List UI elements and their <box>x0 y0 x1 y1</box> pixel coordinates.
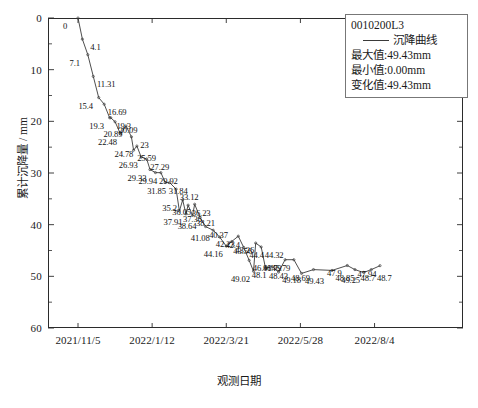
data-point-label: 7.1 <box>70 58 80 68</box>
x-tick-label: 2022/5/28 <box>278 334 324 346</box>
data-point-label: 23 <box>140 140 148 150</box>
y-axis-title: 累计沉降量 / mm <box>14 88 30 228</box>
data-point-label: 38.21 <box>196 218 215 228</box>
y-tick-label: 10 <box>12 64 42 76</box>
y-tick-label: 50 <box>12 270 42 282</box>
y-tick-label: 60 <box>12 322 42 334</box>
legend-series-entry: 沉降曲线 <box>351 33 463 48</box>
data-point-label: 29.92 <box>159 176 178 186</box>
data-point-label: 49.02 <box>231 274 250 284</box>
data-point-label: 41.08 <box>191 233 210 243</box>
x-tick-label: 2022/1/12 <box>129 334 175 346</box>
data-point-label: 44.32 <box>265 250 284 260</box>
figure-caption <box>0 396 478 408</box>
data-point-label: 26.93 <box>119 160 138 170</box>
data-point-label: 4.1 <box>90 42 100 52</box>
x-axis-title: 观测日期 <box>0 372 478 388</box>
x-tick-label: 2022/8/4 <box>355 334 395 346</box>
data-point-label: 33.12 <box>180 192 199 202</box>
data-point-label: 11.31 <box>97 79 116 89</box>
data-point-label: 20.89 <box>104 129 123 139</box>
data-point-label: 38.64 <box>178 221 197 231</box>
data-point-label: 48.7 <box>377 273 392 283</box>
data-point-label: 16.69 <box>108 107 127 117</box>
data-point-label: 47.9 <box>327 268 342 278</box>
data-point-label: 0 <box>63 21 67 31</box>
legend-box: 0010200L3 沉降曲线 最大值:49.43mm 最小值:0.00mm 变化… <box>345 14 468 98</box>
data-point-label: 48.69 <box>291 273 310 283</box>
data-point-markers <box>77 17 381 275</box>
y-tick-label: 0 <box>12 12 42 24</box>
data-point-label: 15.4 <box>78 101 93 111</box>
settlement-curve-figure: 0102030405060 2021/11/52022/1/122022/3/2… <box>0 0 478 408</box>
data-point-label: 44.16 <box>204 249 223 259</box>
x-tick-label: 2021/11/5 <box>55 334 100 346</box>
data-point-label: 46.79 <box>271 263 290 273</box>
data-point-label: 40.37 <box>209 230 228 240</box>
settlement-curve-line <box>78 18 380 273</box>
data-point-label: 19.3 <box>89 121 104 131</box>
legend-change-value: 变化值:49.43mm <box>351 78 463 93</box>
data-point-label: 47.94 <box>358 269 377 279</box>
legend-title: 0010200L3 <box>351 18 463 33</box>
legend-min-value: 最小值:0.00mm <box>351 63 463 78</box>
data-point-label: 42.23 <box>216 239 235 249</box>
x-tick-label: 2022/3/21 <box>204 334 250 346</box>
legend-max-value: 最大值:49.43mm <box>351 48 463 63</box>
data-point-label: 27.29 <box>150 162 169 172</box>
data-point-label: 31.85 <box>147 186 166 196</box>
legend-series-label: 沉降曲线 <box>393 33 437 48</box>
data-point-label: 24.78 <box>114 149 133 159</box>
data-point-label: 29.94 <box>138 176 157 186</box>
data-point-label: 43.56 <box>233 246 252 256</box>
line-swatch-icon <box>363 40 389 41</box>
